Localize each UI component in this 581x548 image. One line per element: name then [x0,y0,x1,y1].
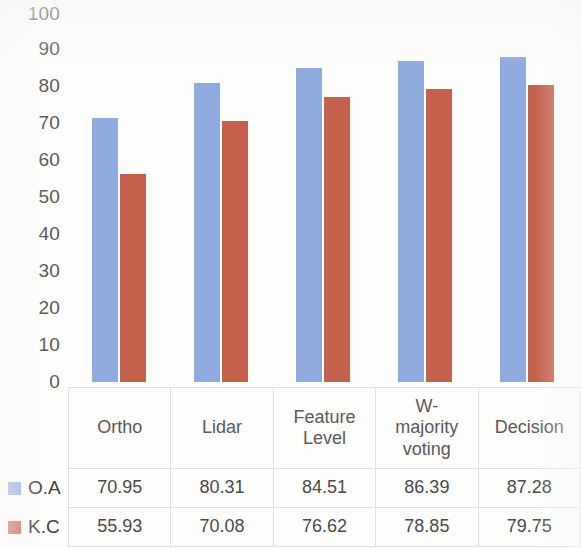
cell-oa-decision: 87.28 [478,469,580,508]
y-axis-tick: 100 [8,4,60,23]
bar-oa-feature-level [296,68,322,382]
y-axis-tick: 60 [8,150,60,169]
table-row: O.A 70.95 80.31 84.51 86.39 87.28 [0,469,581,508]
bar-chart-figure: 100 90 80 70 60 50 40 30 20 10 0 [0,0,581,548]
bar-kc-w-majority-voting [426,89,452,382]
y-axis-tick: 50 [8,187,60,206]
plot-area: 100 90 80 70 60 50 40 30 20 10 0 [0,0,581,392]
cell-kc-decision: 79.75 [478,508,580,547]
y-axis-tick: 10 [8,335,60,354]
legend-item-kc: K.C [0,508,69,547]
table-header-line: majority [376,417,477,438]
bar-kc-ortho [120,174,146,382]
table-header-line: Ortho [69,417,170,438]
cell-oa-lidar: 80.31 [171,469,273,508]
legend-label: O.A [28,477,61,499]
table-header-decision: Decision [478,388,580,469]
legend-label: K.C [28,516,60,538]
legend-swatch-icon [8,482,21,495]
y-axis-tick: 30 [8,261,60,280]
table-row: K.C 55.93 70.08 76.62 78.85 79.75 [0,508,581,547]
bar-kc-lidar [222,121,248,382]
cell-kc-ortho: 55.93 [69,508,171,547]
bar-oa-w-majority-voting [398,61,424,382]
cell-oa-feature-level: 84.51 [273,469,375,508]
table-row-headers: Ortho Lidar Feature Level W- majority vo… [0,388,581,469]
cell-kc-w-majority-voting: 78.85 [376,508,478,547]
y-axis-tick: 80 [8,76,60,95]
y-axis: 100 90 80 70 60 50 40 30 20 10 0 [0,0,60,392]
cell-oa-w-majority-voting: 86.39 [376,469,478,508]
table-header-feature-level: Feature Level [273,388,375,469]
bar-kc-decision [528,85,554,382]
cell-kc-feature-level: 76.62 [273,508,375,547]
bar-oa-ortho [92,118,118,382]
table-header-lidar: Lidar [171,388,273,469]
table-header-line: Feature [274,407,375,428]
table-header-line: Level [274,428,375,449]
table-header-line: Decision [479,417,580,438]
bar-oa-decision [500,57,526,382]
table-header-ortho: Ortho [69,388,171,469]
legend-swatch-icon [8,521,21,534]
y-axis-tick: 70 [8,113,60,132]
cell-oa-ortho: 70.95 [69,469,171,508]
y-axis-tick: 40 [8,224,60,243]
data-table: Ortho Lidar Feature Level W- majority vo… [0,387,581,547]
bar-oa-lidar [194,83,220,382]
table-header-line: Lidar [171,417,272,438]
y-axis-tick: 90 [8,39,60,58]
table-header-line: W- [376,396,477,417]
bar-kc-feature-level [324,97,350,382]
legend-item-oa: O.A [0,469,69,508]
table-corner-cell [0,388,69,469]
table-header-w-majority-voting: W- majority voting [376,388,478,469]
y-axis-tick: 20 [8,298,60,317]
bar-series-group [68,0,581,392]
table-header-line: voting [376,439,477,460]
cell-kc-lidar: 70.08 [171,508,273,547]
